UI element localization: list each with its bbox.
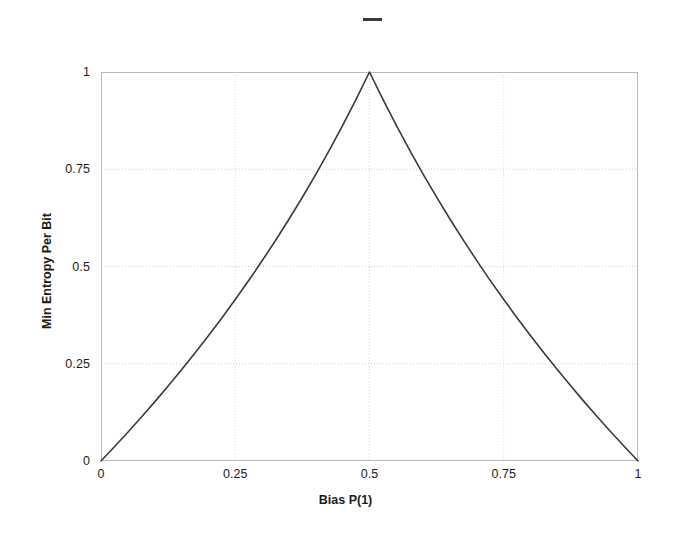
y-tick-label-075: 0.75 <box>40 162 90 176</box>
x-tick-label-0: 0 <box>97 467 104 481</box>
plot-canvas <box>101 72 638 461</box>
x-tick-label-025: 0.25 <box>223 467 248 481</box>
x-tick-label-075: 0.75 <box>491 467 516 481</box>
legend-line-swatch-icon <box>363 18 382 21</box>
chart-legend <box>0 0 691 52</box>
y-tick-label-1: 1 <box>40 65 90 79</box>
x-axis-title: Bias P(1) <box>0 493 691 507</box>
y-axis-title: Min Entropy Per Bit <box>40 176 54 366</box>
chart-figure: 1 0.75 0.5 0.25 0 0 0.25 0.5 0.75 1 Bias… <box>0 0 691 534</box>
x-tick-label-05: 0.5 <box>361 467 379 481</box>
x-tick-label-1: 1 <box>634 467 641 481</box>
legend-entry <box>363 18 386 21</box>
y-tick-label-0: 0 <box>40 454 90 468</box>
